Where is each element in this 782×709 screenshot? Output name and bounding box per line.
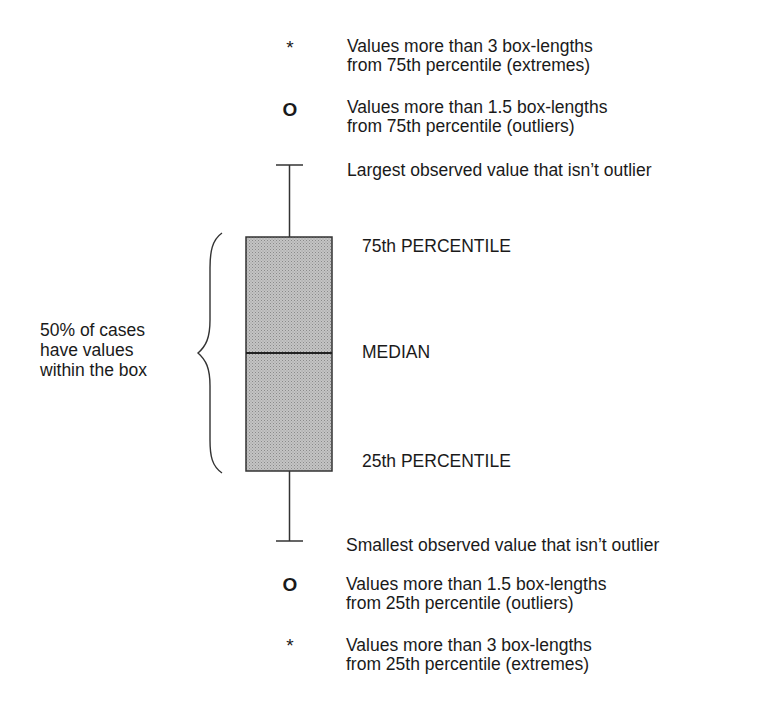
largest-value-label: Largest observed value that isn’t outlie… bbox=[347, 161, 651, 180]
lower-extreme-label-1: Values more than 3 box-lengths bbox=[346, 636, 592, 655]
upper-outlier-label-2: from 75th percentile (outliers) bbox=[347, 117, 575, 136]
brace-label-3: within the box bbox=[40, 361, 147, 380]
extreme-symbol-lower: * bbox=[280, 636, 300, 655]
p75-label: 75th PERCENTILE bbox=[362, 237, 511, 256]
upper-extreme-label-1: Values more than 3 box-lengths bbox=[347, 37, 593, 56]
smallest-value-label: Smallest observed value that isn’t outli… bbox=[346, 536, 659, 555]
lower-extreme-label-2: from 25th percentile (extremes) bbox=[346, 655, 589, 674]
outlier-symbol-upper: O bbox=[280, 100, 300, 119]
upper-outlier-label-1: Values more than 1.5 box-lengths bbox=[347, 98, 607, 117]
median-label: MEDIAN bbox=[362, 343, 430, 362]
curly-brace bbox=[198, 233, 222, 473]
brace-label-2: have values bbox=[40, 341, 133, 360]
extreme-symbol-upper: * bbox=[280, 38, 300, 57]
lower-outlier-label-2: from 25th percentile (outliers) bbox=[346, 594, 574, 613]
outlier-symbol-lower: O bbox=[280, 575, 300, 594]
p25-label: 25th PERCENTILE bbox=[362, 452, 511, 471]
brace-label-1: 50% of cases bbox=[40, 321, 145, 340]
upper-extreme-label-2: from 75th percentile (extremes) bbox=[347, 56, 590, 75]
lower-outlier-label-1: Values more than 1.5 box-lengths bbox=[346, 575, 606, 594]
